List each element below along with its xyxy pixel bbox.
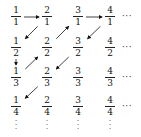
arrow-down-left bbox=[25, 87, 37, 99]
arrow-down-left bbox=[56, 57, 68, 69]
arrow-down-left bbox=[88, 26, 101, 38]
arrow-up-right bbox=[25, 57, 37, 69]
arrows-layer bbox=[0, 0, 141, 137]
arrow-up-right bbox=[56, 26, 68, 38]
arrow-down-left bbox=[25, 26, 37, 38]
